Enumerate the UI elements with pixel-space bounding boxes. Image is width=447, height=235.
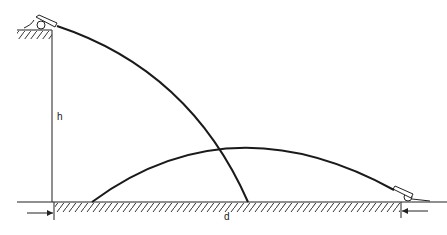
diagram-canvas: h d	[0, 0, 447, 235]
distance-label: d	[224, 211, 230, 222]
trajectory-from-ground	[92, 148, 394, 202]
ground	[17, 202, 447, 212]
left-cannon-icon	[24, 15, 57, 29]
trajectory-from-cliff	[57, 26, 248, 202]
right-cannon-icon	[393, 186, 430, 201]
cliff-top	[17, 30, 52, 39]
height-label: h	[57, 111, 63, 122]
